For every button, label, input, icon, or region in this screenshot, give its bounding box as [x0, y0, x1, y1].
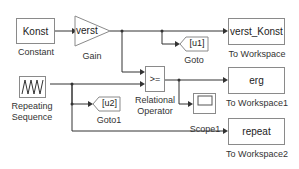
constant-block[interactable]: Konst: [16, 18, 55, 44]
to-workspace1-block[interactable]: erg: [228, 67, 285, 94]
goto1-label: Goto1: [94, 115, 124, 126]
scope1-label: Scope1: [188, 124, 222, 135]
constant-label: Constant: [14, 47, 58, 58]
to-workspace1-value: erg: [249, 75, 263, 86]
to-workspace2-label: To Workspace2: [224, 149, 290, 160]
to-workspace-block[interactable]: verst_Konst: [228, 18, 285, 45]
to-workspace2-value: repeat: [242, 126, 270, 137]
relational-operator-block[interactable]: >=: [145, 66, 165, 92]
goto-tag[interactable]: [u1]: [186, 38, 208, 49]
to-workspace1-label: To Workspace1: [224, 98, 290, 109]
goto1-tag[interactable]: [u2]: [99, 98, 120, 109]
relational-operator-label-1: Relational: [132, 95, 178, 106]
scope1-block[interactable]: [193, 93, 216, 114]
to-workspace-value: verst_Konst: [230, 26, 283, 37]
relational-operator-value: >=: [150, 74, 161, 84]
repeating-sequence-label-2: Sequence: [6, 112, 58, 123]
gain-label: Gain: [80, 51, 104, 62]
to-workspace-label: To Workspace: [224, 49, 290, 60]
constant-value: Konst: [23, 26, 49, 37]
repeating-sequence-block[interactable]: [19, 76, 46, 98]
gain-value[interactable]: verst: [76, 25, 98, 36]
repeating-sequence-label-1: Repeating: [6, 101, 58, 112]
goto-label: Goto: [180, 55, 208, 66]
relational-operator-label-2: Operator: [132, 106, 178, 117]
to-workspace2-block[interactable]: repeat: [228, 118, 285, 145]
